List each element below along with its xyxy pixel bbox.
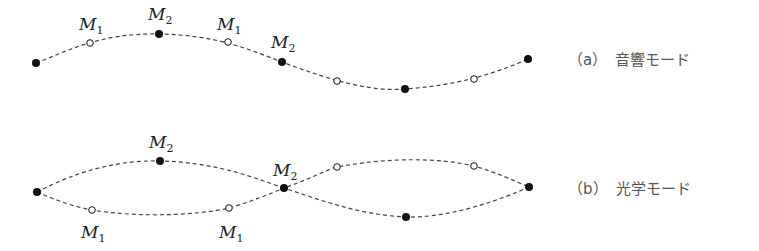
atom-heavy-filled-dot — [280, 184, 288, 192]
atom-heavy-filled-dot — [402, 213, 410, 221]
mass-label: M2 — [272, 160, 297, 183]
panel-a: M1M2M1M2 — [32, 4, 532, 93]
atom-light-open-dot — [89, 207, 96, 214]
mass-label: M2 — [270, 32, 295, 55]
panel-b: M2M2M1M1 — [33, 132, 533, 245]
mass-label: M2 — [147, 4, 172, 27]
atom-light-open-dot — [334, 78, 341, 85]
caption-optical-mode: （b） 光学モード — [568, 177, 691, 198]
mass-label: M1 — [78, 14, 103, 37]
atom-heavy-filled-dot — [156, 157, 164, 165]
atom-light-open-dot — [225, 39, 232, 46]
atom-heavy-filled-dot — [401, 85, 409, 93]
atom-light-open-dot — [87, 40, 94, 47]
atom-heavy-filled-dot — [32, 59, 40, 67]
atom-heavy-filled-dot — [525, 183, 533, 191]
atom-heavy-filled-dot — [524, 55, 532, 63]
mass-label: M1 — [218, 222, 243, 245]
atom-light-open-dot — [471, 76, 478, 83]
mass-label: M1 — [80, 222, 105, 245]
atom-light-open-dot — [334, 164, 341, 171]
phonon-mode-diagram: M1M2M1M2M2M2M1M1 — [0, 0, 759, 251]
mass-label: M1 — [216, 14, 241, 37]
atom-heavy-filled-dot — [278, 58, 286, 66]
caption-acoustic-mode: （a） 音響モード — [568, 48, 690, 69]
atom-light-open-dot — [226, 205, 233, 212]
mass-label: M2 — [148, 132, 173, 155]
atom-heavy-filled-dot — [33, 188, 41, 196]
atom-heavy-filled-dot — [155, 30, 163, 38]
atom-light-open-dot — [471, 163, 478, 170]
